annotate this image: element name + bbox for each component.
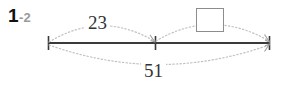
problem-label: 1 -2 (8, 6, 31, 25)
number-line-diagram-canvas: 1 -2 23 51 (0, 0, 282, 86)
segment-label-top-left: 23 (85, 13, 110, 32)
problem-number: 1 (8, 6, 18, 25)
problem-sub-number: -2 (19, 11, 31, 24)
arrowhead-top-left-arc (150, 35, 155, 42)
segment-label-bottom: 51 (141, 61, 166, 80)
answer-box-input[interactable] (196, 8, 224, 32)
